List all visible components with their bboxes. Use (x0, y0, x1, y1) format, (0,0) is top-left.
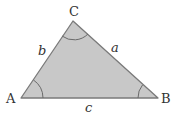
side-label-a: a (111, 40, 119, 55)
side-label-c: c (85, 100, 93, 115)
side-label-b: b (38, 43, 46, 58)
vertex-label-b: B (161, 91, 171, 106)
vertex-label-c: C (69, 4, 79, 19)
triangle-diagram: C A B b a c (0, 0, 180, 115)
vertex-label-a: A (5, 91, 16, 106)
triangle-abc (21, 21, 158, 98)
